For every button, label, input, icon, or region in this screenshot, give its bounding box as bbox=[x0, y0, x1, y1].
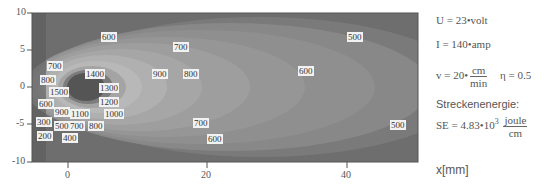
speed-value: v = 20•cmmin η = 0.5 bbox=[436, 64, 531, 89]
speed-prefix: v = 20• bbox=[436, 69, 468, 81]
y-tick-label: 0 bbox=[20, 80, 25, 91]
contour-label: 800 bbox=[40, 75, 56, 85]
contour-label: 1100 bbox=[70, 109, 90, 119]
energy-value: SE = 4.83•103 joulecm bbox=[436, 114, 527, 139]
contour-label: 400 bbox=[62, 133, 78, 143]
contour-label: 1300 bbox=[99, 83, 119, 93]
contour-svg bbox=[0, 0, 420, 196]
contour-label: 1000 bbox=[104, 109, 124, 119]
contour-label: 500 bbox=[347, 32, 363, 42]
efficiency-value: η = 0.5 bbox=[500, 69, 531, 81]
y-tick-label: -10 bbox=[12, 155, 25, 166]
energy-prefix: SE = 4.83•10 bbox=[436, 119, 495, 131]
energy-unit-fraction: joulecm bbox=[503, 114, 527, 139]
contour-label: 800 bbox=[88, 121, 104, 131]
current-value: I = 140•amp bbox=[436, 38, 491, 50]
contour-label: 600 bbox=[207, 134, 223, 144]
x-axis-label: x[mm] bbox=[436, 163, 469, 177]
contour-label: 500 bbox=[390, 120, 406, 130]
x-tick-label: 20 bbox=[201, 169, 211, 180]
contour-plot: 10 5 0 -5 -10 0 20 40 600700500700140090… bbox=[0, 0, 420, 196]
contour-label: 200 bbox=[37, 131, 53, 141]
voltage-value: U = 23•volt bbox=[436, 14, 488, 26]
contour-label: 1400 bbox=[85, 69, 105, 79]
speed-unit-num: cm bbox=[470, 64, 487, 77]
parameter-panel: U = 23•volt I = 140•amp v = 20•cmmin η =… bbox=[436, 0, 547, 196]
contour-label: 900 bbox=[152, 69, 168, 79]
speed-unit-den: min bbox=[470, 77, 487, 89]
energy-unit-num: joule bbox=[503, 114, 527, 127]
energy-unit-den: cm bbox=[503, 127, 527, 139]
y-tick-label: 10 bbox=[16, 6, 26, 17]
contour-label: 700 bbox=[193, 118, 209, 128]
x-tick-label: 40 bbox=[341, 169, 351, 180]
contour-label: 700 bbox=[47, 61, 63, 71]
contour-label: 1200 bbox=[99, 97, 119, 107]
speed-unit-fraction: cmmin bbox=[470, 64, 487, 89]
contour-label: 700 bbox=[173, 42, 189, 52]
contour-label: 1500 bbox=[49, 87, 69, 97]
contour-label: 800 bbox=[183, 69, 199, 79]
contour-label: 300 bbox=[36, 117, 52, 127]
contour-label: 600 bbox=[101, 32, 117, 42]
x-tick-label: 0 bbox=[65, 169, 70, 180]
contour-label: 700 bbox=[69, 121, 85, 131]
contour-label: 500 bbox=[54, 121, 70, 131]
y-tick-label: 5 bbox=[20, 43, 25, 54]
contour-label: 600 bbox=[298, 66, 314, 76]
y-tick-label: -5 bbox=[16, 117, 24, 128]
contour-label: 600 bbox=[38, 99, 54, 109]
contour-label: 900 bbox=[54, 107, 70, 117]
energy-exponent: 3 bbox=[495, 117, 499, 126]
section-heading: Streckenenergie: bbox=[436, 98, 519, 110]
